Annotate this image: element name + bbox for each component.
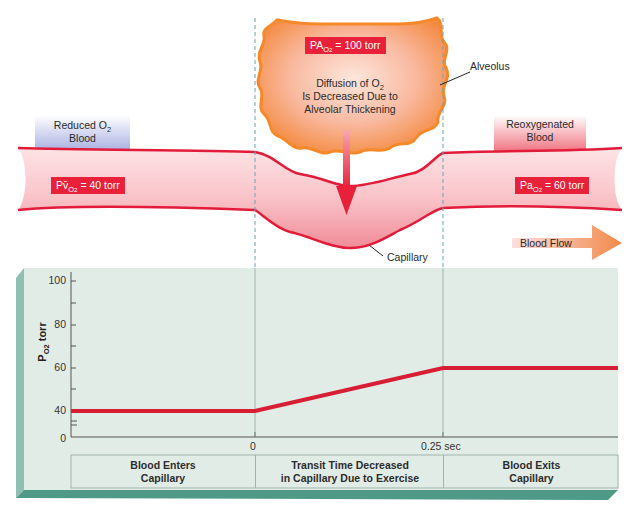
alveolar-po2-label: PAO2 = 100 torr — [305, 37, 386, 54]
capillary-callout: Capillary — [387, 251, 428, 264]
venous-po2-label: Pv̄O2 = 40 torr — [51, 177, 125, 194]
y-tick-label-0: 0 — [36, 432, 66, 444]
blood-flow-label: Blood Flow — [520, 237, 572, 250]
reduced-blood-label: Reduced O2 Blood — [35, 119, 130, 145]
blood-vessel — [18, 148, 622, 248]
diffusion-arrow-shaft — [343, 130, 350, 188]
y-axis-title: PO2 torr — [36, 312, 48, 372]
x-tick-label-0: 0 — [250, 440, 256, 452]
y-tick-label-40: 40 — [36, 404, 66, 416]
arterial-po2-label: PaO2 = 60 torr — [515, 177, 589, 194]
y-tick-label-100: 100 — [36, 274, 66, 286]
phase-cell-enters: Blood EntersCapillary — [71, 455, 255, 488]
x-tick-label-025: 0.25 sec — [421, 440, 461, 452]
panel-bottom-bevel — [16, 490, 618, 500]
phase-cell-exits: Blood ExitsCapillary — [443, 455, 619, 488]
diffusion-text: Diffusion of O2 Is Decreased Due to Alve… — [290, 77, 410, 116]
reoxygenated-blood-label: Reoxygenated Blood — [494, 118, 586, 144]
alveolus-callout: Alveolus — [470, 60, 510, 73]
capillary-callout-line — [369, 245, 383, 256]
phase-cell-transit: Transit Time Decreasedin Capillary Due t… — [255, 455, 444, 488]
panel-left-bevel — [16, 268, 24, 498]
